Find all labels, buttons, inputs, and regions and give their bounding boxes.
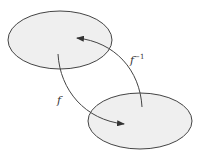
mapping-diagram: f f−1 bbox=[0, 0, 198, 159]
f-inverse-label: f−1 bbox=[129, 53, 144, 67]
codomain-set bbox=[88, 93, 192, 149]
domain-set bbox=[8, 11, 112, 69]
f-label: f bbox=[56, 94, 63, 107]
